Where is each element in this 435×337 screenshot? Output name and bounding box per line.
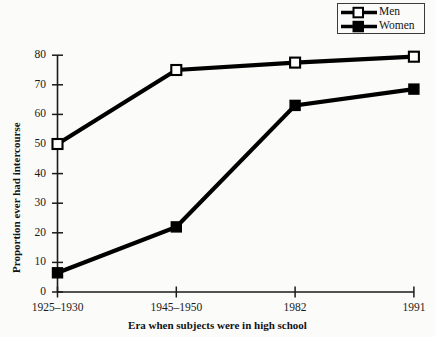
legend-marker-open-square-icon [340, 6, 378, 19]
y-tick-label-20: 20 [18, 227, 46, 239]
x-tick-label-1945-1950: 1945–1950 [126, 302, 226, 314]
chart-legend: Men Women [337, 3, 425, 34]
y-tick-label-60: 60 [18, 108, 46, 120]
legend-item-men: Men [340, 5, 400, 19]
y-tick-label-80: 80 [18, 49, 46, 61]
x-axis-title: Era when subjects were in high school [0, 320, 435, 331]
y-tick-label-30: 30 [18, 197, 46, 209]
legend-label-men: Men [379, 6, 400, 18]
y-tick-label-0: 0 [18, 286, 46, 298]
x-tick-label-1991: 1991 [364, 302, 435, 314]
x-tick-label-1982: 1982 [245, 302, 345, 314]
series-line-women [58, 89, 414, 273]
y-tick-label-40: 40 [18, 168, 46, 180]
y-tick-label-50: 50 [18, 138, 46, 150]
chart-figure: 80 70 60 50 40 30 20 10 0 1925–1930 1945… [0, 0, 435, 337]
legend-item-women: Women [340, 19, 414, 33]
legend-marker-filled-square-icon [340, 20, 378, 33]
y-tick-label-10: 10 [18, 256, 46, 268]
line-chart-plot [0, 0, 435, 337]
legend-label-women: Women [379, 20, 414, 32]
y-tick-label-70: 70 [18, 79, 46, 91]
y-axis-title: Proportion ever had intercourse [11, 122, 22, 273]
series-line-men [58, 57, 414, 144]
x-tick-label-1925-1930: 1925–1930 [8, 302, 108, 314]
